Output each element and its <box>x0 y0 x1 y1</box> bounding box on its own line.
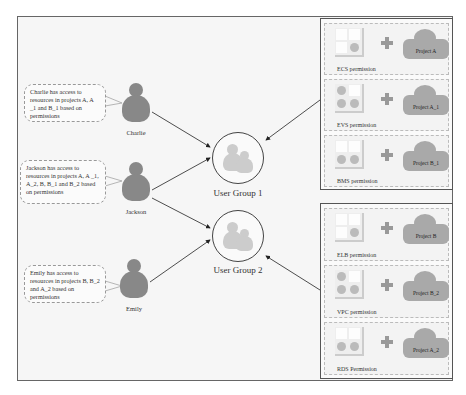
emily-name: Emily <box>109 305 159 312</box>
user-group-1-label: User Group 1 <box>193 188 283 198</box>
plus-icon <box>381 149 393 161</box>
user-group-2-label: User Group 2 <box>193 265 283 275</box>
user-group-2-icon <box>212 210 264 262</box>
jackson-user-icon <box>122 162 150 202</box>
charlie-name: Charlie <box>111 129 161 136</box>
plus-icon <box>381 93 393 105</box>
cloud-icon: Project A_1 <box>403 85 449 115</box>
rds-grid-icon <box>335 327 364 356</box>
permission-row: Project B_1 BMS permission <box>324 135 449 187</box>
cloud-icon: Project A_2 <box>403 328 449 358</box>
cloud-icon: Project B_1 <box>403 141 449 171</box>
bms-grid-icon <box>335 140 364 169</box>
permission-row: Project B ELB permission <box>324 208 449 261</box>
cloud-icon: Project B_2 <box>403 271 449 301</box>
ecs-grid-icon <box>335 28 364 57</box>
plus-icon <box>381 222 393 234</box>
vpc-grid-icon <box>335 270 364 299</box>
permission-label: EVS permission <box>337 122 376 128</box>
jackson-access-bubble: Jackson has access to resources in proje… <box>20 160 106 204</box>
permission-label: ELB permission <box>337 252 376 258</box>
evs-grid-icon <box>335 84 364 113</box>
emily-user-icon <box>120 259 148 299</box>
elb-grid-icon <box>335 213 364 242</box>
plus-icon <box>381 336 393 348</box>
plus-icon <box>381 37 393 49</box>
user-group-1-icon <box>212 132 264 184</box>
permission-label: VPC permission <box>337 309 377 315</box>
plus-icon <box>381 279 393 291</box>
group-1-permissions-box: Project A ECS permission Project A_1 EVS… <box>320 18 453 190</box>
group-2-permissions-box: Project B ELB permission Project B_2 VPC… <box>320 203 453 379</box>
permission-label: ECS permission <box>337 66 376 72</box>
emily-access-bubble: Emily has access to resources in project… <box>24 265 106 303</box>
charlie-access-bubble: Charlie has access to resources in proje… <box>24 84 106 122</box>
permission-row: Project A ECS permission <box>324 23 449 75</box>
cloud-icon: Project A <box>403 29 449 59</box>
permission-label: RDS Permission <box>337 366 377 372</box>
cloud-icon: Project B <box>403 214 449 244</box>
charlie-user-icon <box>122 83 150 123</box>
jackson-name: Jackson <box>111 208 161 215</box>
permission-row: Project A_2 RDS Permission <box>324 322 449 375</box>
permission-row: Project B_2 VPC permission <box>324 265 449 318</box>
permission-label: BMS permission <box>337 178 378 184</box>
permission-row: Project A_1 EVS permission <box>324 79 449 131</box>
